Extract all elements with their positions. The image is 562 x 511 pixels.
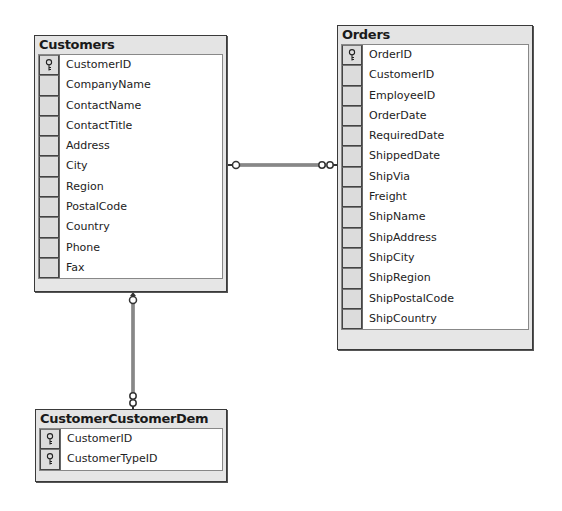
column-row[interactable]: ShipName: [342, 207, 528, 227]
row-selector[interactable]: [39, 258, 59, 278]
column-name: ShippedDate: [362, 146, 440, 166]
row-selector[interactable]: [342, 248, 362, 268]
column-name: Freight: [362, 187, 407, 207]
column-name: ContactName: [59, 96, 141, 116]
column-name: Region: [59, 177, 104, 197]
column-row[interactable]: Address: [39, 136, 222, 156]
column-name: ShipRegion: [362, 268, 431, 288]
row-selector[interactable]: [39, 55, 59, 75]
row-selector[interactable]: [40, 449, 60, 469]
row-selector[interactable]: [342, 45, 362, 65]
column-name: ShipPostalCode: [362, 289, 454, 309]
column-row[interactable]: OrderDate: [342, 106, 528, 126]
column-name: ShipCountry: [362, 309, 437, 329]
row-selector[interactable]: [342, 289, 362, 309]
table-orders[interactable]: Orders OrderIDCustomerIDEmployeeIDOrderD…: [337, 25, 533, 350]
column-row[interactable]: ShipAddress: [342, 228, 528, 248]
row-selector[interactable]: [39, 156, 59, 176]
key-icon: [348, 49, 356, 61]
column-row[interactable]: Country: [39, 217, 222, 237]
column-row[interactable]: Phone: [39, 238, 222, 258]
key-icon: [46, 433, 54, 445]
row-selector[interactable]: [40, 429, 60, 449]
row-selector[interactable]: [39, 116, 59, 136]
relationship-customers-customerdemo[interactable]: [130, 292, 137, 409]
column-name: City: [59, 156, 88, 176]
column-name: ShipCity: [362, 248, 415, 268]
column-row[interactable]: ShipRegion: [342, 268, 528, 288]
column-row[interactable]: Freight: [342, 187, 528, 207]
row-selector[interactable]: [39, 96, 59, 116]
row-selector[interactable]: [342, 86, 362, 106]
table-title: CustomerCustomerDem: [36, 410, 226, 428]
column-row[interactable]: ShippedDate: [342, 146, 528, 166]
row-selector[interactable]: [342, 167, 362, 187]
column-row[interactable]: ShipPostalCode: [342, 289, 528, 309]
column-row[interactable]: ShipCountry: [342, 309, 528, 329]
column-list: CustomerIDCustomerTypeID: [39, 428, 223, 471]
row-selector[interactable]: [39, 75, 59, 95]
column-row[interactable]: Fax: [39, 258, 222, 278]
column-row[interactable]: CustomerID: [342, 65, 528, 85]
column-row[interactable]: CompanyName: [39, 75, 222, 95]
row-selector[interactable]: [342, 309, 362, 329]
row-selector[interactable]: [342, 207, 362, 227]
row-selector[interactable]: [39, 136, 59, 156]
column-row[interactable]: ContactTitle: [39, 116, 222, 136]
column-row[interactable]: CustomerID: [39, 55, 222, 75]
column-list: OrderIDCustomerIDEmployeeIDOrderDateRequ…: [341, 44, 529, 330]
column-list: CustomerIDCompanyNameContactNameContactT…: [38, 54, 223, 279]
column-row[interactable]: CustomerTypeID: [40, 449, 222, 469]
table-title: Customers: [35, 36, 226, 54]
row-selector[interactable]: [342, 146, 362, 166]
column-name: Fax: [59, 258, 85, 278]
column-row[interactable]: ContactName: [39, 96, 222, 116]
row-selector[interactable]: [39, 217, 59, 237]
column-row[interactable]: CustomerID: [40, 429, 222, 449]
row-selector[interactable]: [342, 268, 362, 288]
column-name: CompanyName: [59, 75, 151, 95]
column-name: ShipAddress: [362, 228, 437, 248]
column-name: CustomerID: [60, 429, 132, 449]
row-selector[interactable]: [342, 65, 362, 85]
one-end-icon: [130, 297, 137, 304]
row-selector[interactable]: [342, 187, 362, 207]
row-selector[interactable]: [39, 197, 59, 217]
column-name: ContactTitle: [59, 116, 132, 136]
column-name: ShipName: [362, 207, 425, 227]
table-title: Orders: [338, 26, 532, 44]
one-end-icon: [233, 162, 240, 169]
key-icon: [45, 59, 53, 71]
column-name: Phone: [59, 238, 100, 258]
column-name: CustomerTypeID: [60, 449, 157, 469]
column-name: ShipVia: [362, 167, 410, 187]
row-selector[interactable]: [342, 126, 362, 146]
column-name: Address: [59, 136, 110, 156]
row-selector[interactable]: [342, 106, 362, 126]
column-row[interactable]: EmployeeID: [342, 86, 528, 106]
column-row[interactable]: ShipCity: [342, 248, 528, 268]
many-end-icon: [130, 393, 136, 399]
column-name: Country: [59, 217, 110, 237]
column-row[interactable]: OrderID: [342, 45, 528, 65]
table-customers[interactable]: Customers CustomerIDCompanyNameContactNa…: [34, 35, 227, 292]
column-row[interactable]: PostalCode: [39, 197, 222, 217]
column-name: OrderID: [362, 45, 412, 65]
column-name: PostalCode: [59, 197, 127, 217]
table-customer-customer-demo[interactable]: CustomerCustomerDem CustomerIDCustomerTy…: [35, 409, 227, 482]
column-name: CustomerID: [59, 55, 131, 75]
column-row[interactable]: RequiredDate: [342, 126, 528, 146]
column-row[interactable]: City: [39, 156, 222, 176]
column-row[interactable]: Region: [39, 177, 222, 197]
many-end-icon: [319, 162, 325, 168]
column-name: CustomerID: [362, 65, 434, 85]
row-selector[interactable]: [39, 177, 59, 197]
column-name: RequiredDate: [362, 126, 444, 146]
column-name: OrderDate: [362, 106, 427, 126]
column-name: EmployeeID: [362, 86, 435, 106]
row-selector[interactable]: [39, 238, 59, 258]
key-icon: [46, 453, 54, 465]
row-selector[interactable]: [342, 228, 362, 248]
relationship-customers-orders[interactable]: [227, 162, 337, 169]
column-row[interactable]: ShipVia: [342, 167, 528, 187]
